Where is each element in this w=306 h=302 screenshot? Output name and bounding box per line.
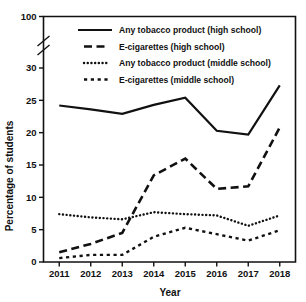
- x-tick-label: 2016: [206, 268, 227, 279]
- series-line-3: [59, 228, 280, 258]
- x-tick-label: 2011: [49, 268, 70, 279]
- data-series-group: [59, 85, 280, 258]
- y-axis-title: Percentage of students: [4, 120, 15, 231]
- chart-legend: Any tobacco product (high school)E-cigar…: [78, 25, 271, 85]
- legend-label-3: E-cigarettes (middle school): [119, 75, 234, 85]
- series-line-1: [59, 127, 280, 252]
- legend-label-2: Any tobacco product (middle school): [119, 58, 271, 68]
- legend-label-0: Any tobacco product (high school): [119, 25, 261, 35]
- y-tick-label: 25: [26, 95, 37, 106]
- x-axis-ticks: 20112012201320142015201620172018: [49, 262, 290, 279]
- x-tick-label: 2014: [143, 268, 165, 279]
- series-line-0: [59, 85, 280, 134]
- x-tick-label: 2015: [175, 268, 197, 279]
- y-tick-label: 5: [31, 224, 37, 235]
- y-tick-label: 30: [26, 62, 37, 73]
- x-tick-label: 2013: [112, 268, 133, 279]
- legend-label-1: E-cigarettes (high school): [119, 42, 225, 52]
- line-chart: 051015202530100 201120122013201420152016…: [0, 0, 306, 302]
- chart-canvas: 051015202530100 201120122013201420152016…: [0, 0, 306, 302]
- x-tick-label: 2012: [80, 268, 101, 279]
- y-tick-label: 0: [31, 256, 36, 267]
- y-tick-label: 100: [21, 11, 37, 22]
- x-axis-title: Year: [159, 287, 180, 298]
- y-axis-ticks: 051015202530100: [21, 11, 44, 268]
- y-tick-label: 15: [26, 159, 37, 170]
- x-tick-label: 2018: [269, 268, 290, 279]
- y-tick-label: 10: [26, 192, 37, 203]
- x-tick-label: 2017: [238, 268, 259, 279]
- y-tick-label: 20: [26, 127, 37, 138]
- series-line-2: [59, 212, 280, 226]
- plot-frame: [44, 17, 296, 263]
